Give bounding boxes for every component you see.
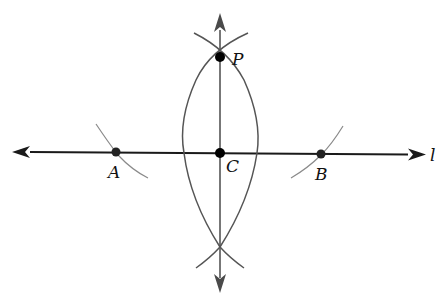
label-P: P: [231, 49, 244, 69]
label-C: C: [226, 156, 239, 176]
point-A: [112, 148, 121, 157]
arc-at-A: [96, 124, 148, 178]
left-arrow-icon: [12, 146, 30, 158]
label-A: A: [106, 162, 120, 182]
point-C: [215, 148, 225, 158]
right-arrow-icon: [408, 149, 426, 161]
construction-diagram: P C A B l: [0, 0, 441, 303]
point-B: [317, 150, 326, 159]
label-line-l: l: [430, 145, 435, 165]
label-B: B: [314, 164, 328, 184]
point-P: [215, 52, 225, 62]
up-arrow-icon: [214, 13, 226, 32]
